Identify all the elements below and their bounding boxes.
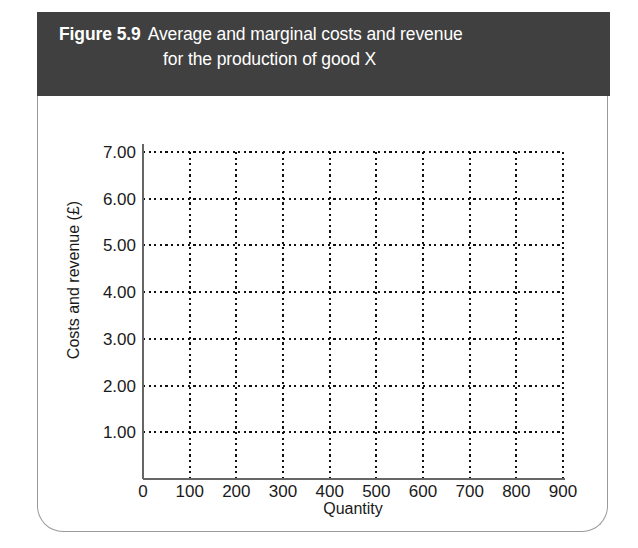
x-axis-tick-label: 900 — [549, 483, 577, 500]
x-axis-title: Quantity — [143, 500, 563, 518]
chart-grid-canvas — [38, 96, 609, 532]
x-axis-tick-label: 500 — [362, 483, 390, 500]
vertical-gridlines — [190, 152, 563, 479]
horizontal-gridlines — [143, 152, 563, 432]
figure-caption-text-1: Average and marginal costs and revenue — [148, 24, 463, 44]
chart-plot-region: Costs and revenue (£) 1.002.003.004.005.… — [38, 96, 609, 532]
x-axis-tick-label: 700 — [455, 483, 483, 500]
x-axis-tick-label: 300 — [269, 483, 297, 500]
x-axis-tick-label: 0 — [138, 483, 147, 500]
figure-caption-line-1: Figure 5.9Average and marginal costs and… — [59, 22, 596, 47]
figure-caption-text-2: for the production of good X — [163, 49, 376, 69]
figure-number-label: Figure 5.9 — [59, 24, 141, 44]
figure-caption-line-2: for the production of good X — [59, 47, 596, 72]
x-axis-tick-label: 400 — [315, 483, 343, 500]
figure-header-banner: Figure 5.9Average and marginal costs and… — [37, 12, 610, 96]
x-axis-tick-label: 100 — [175, 483, 203, 500]
axis-lines — [143, 144, 565, 479]
figure-card: Figure 5.9Average and marginal costs and… — [37, 12, 608, 532]
x-axis-tick-label: 600 — [409, 483, 437, 500]
x-axis-tick-label: 200 — [222, 483, 250, 500]
x-axis-tick-label: 800 — [502, 483, 530, 500]
